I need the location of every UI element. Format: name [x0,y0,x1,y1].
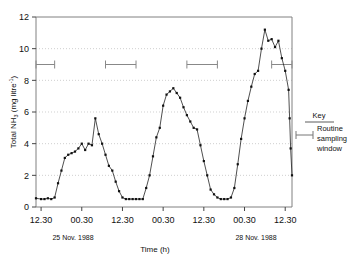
data-point [60,169,62,171]
data-point [271,38,273,40]
data-point [47,197,49,199]
data-point [165,93,167,95]
data-point [199,144,201,146]
x-tick-label-2: 12.30 [111,215,134,225]
plot-area-background [36,17,292,207]
y-tick-label-8: 8 [24,76,29,86]
data-point [254,73,256,75]
x-axis-title: Time (h) [140,245,170,254]
data-point [121,196,123,198]
data-point [274,46,276,48]
data-point [216,196,218,198]
y-axis-ticks: 024681012 [19,12,36,212]
data-point [290,147,292,149]
data-point [64,157,66,159]
data-point [155,136,157,138]
y-axis-title-prefix: Total NH [9,117,18,148]
data-point [203,160,205,162]
data-point [118,190,120,192]
data-point [223,198,225,200]
data-point [281,57,283,59]
legend-title: Key [313,111,326,120]
data-point [128,198,130,200]
data-point [264,29,266,31]
x-tick-label-0: 12.30 [30,215,53,225]
data-point [213,193,215,195]
data-point [115,181,117,183]
data-point [159,127,161,129]
data-point [206,174,208,176]
ammonia-time-series-chart: 024681012 12.3000.3012.3000.3012.3000.30… [0,0,360,266]
y-tick-label-10: 10 [19,44,29,54]
data-point [250,86,252,88]
data-point [67,154,69,156]
data-point [50,198,52,200]
x-tick-label-1: 00.30 [71,215,94,225]
date-annotation-start: 25 Nov. 1988 [52,234,93,241]
y-axis-title: Total NH3 (mg litre-1) [8,75,19,148]
data-point [288,89,290,91]
y-tick-label-12: 12 [19,12,29,22]
data-point [142,198,144,200]
date-annotation-end: 28 Nov. 1988 [235,234,276,241]
data-point [247,100,249,102]
legend-entry-line2: sampling [317,134,347,143]
data-point [81,143,83,145]
y-axis-title-suffix: ) [9,75,18,78]
data-point [35,197,37,199]
data-point [40,198,42,200]
data-point [71,152,73,154]
x-tick-label-3: 00.30 [152,215,175,225]
y-tick-label-2: 2 [24,171,29,181]
data-point [220,198,222,200]
data-point [240,138,242,140]
data-point [243,117,245,119]
data-point [186,114,188,116]
data-point [267,40,269,42]
data-point [179,97,181,99]
y-tick-label-6: 6 [24,107,29,117]
data-point [193,127,195,129]
data-point [77,147,79,149]
data-point [172,87,174,89]
data-point [101,143,103,145]
x-tick-label-5: 00.30 [233,215,256,225]
x-tick-label-4: 12.30 [193,215,216,225]
y-tick-label-4: 4 [24,139,29,149]
data-point [284,70,286,72]
data-point [108,165,110,167]
data-point [210,188,212,190]
data-point [226,198,228,200]
data-point [162,105,164,107]
data-point [169,90,171,92]
data-point [135,198,137,200]
data-point [277,40,279,42]
legend-entry-line3: window [316,144,343,153]
data-point [233,187,235,189]
data-point [132,198,134,200]
data-point [54,196,56,198]
data-point [94,117,96,119]
data-point [138,198,140,200]
data-point [43,198,45,200]
data-point [176,92,178,94]
y-axis-title-mid: (mg litre [9,83,18,115]
data-point [57,182,59,184]
y-tick-label-0: 0 [24,202,29,212]
data-point [152,155,154,157]
data-point [125,198,127,200]
data-point [237,163,239,165]
x-axis-ticks: 12.3000.3012.3000.3012.3000.3012.30 [30,207,297,225]
data-point [84,149,86,151]
data-point [74,150,76,152]
data-point [196,128,198,130]
data-point [260,48,262,50]
legend-entry-line1: Routine [317,124,343,133]
data-point [145,187,147,189]
data-point [87,143,89,145]
data-point [289,117,291,119]
data-point [91,144,93,146]
data-point [291,174,293,176]
data-point [148,174,150,176]
data-point [98,133,100,135]
